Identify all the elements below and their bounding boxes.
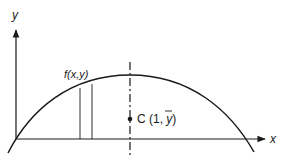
y-axis-label: y: [11, 8, 19, 22]
centroid-diagram: y x f(x,y) C (1, y): [0, 0, 284, 160]
centroid-label: C (1, y): [137, 112, 176, 126]
centroid-point: [128, 117, 133, 122]
x-axis-label: x: [269, 132, 277, 146]
centroid-label-suffix: ): [172, 112, 176, 126]
curve-label: f(x,y): [64, 68, 89, 80]
curve-fx: [8, 75, 254, 153]
centroid-label-prefix: C (1,: [137, 112, 166, 126]
